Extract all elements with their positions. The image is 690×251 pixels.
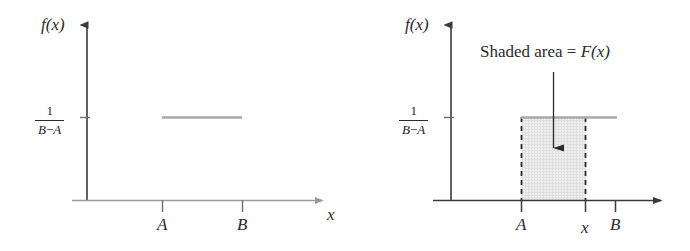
left-fraction-numerator: 1	[35, 103, 64, 120]
right-y-tick-label-fraction: 1 B−A	[399, 103, 428, 138]
left-x-tick-label-a: A	[157, 216, 167, 233]
left-x-axis-label: x	[327, 206, 335, 223]
right-x-tick-label-a: A	[516, 216, 526, 233]
left-x-tick-label-b: B	[237, 216, 247, 233]
right-fraction-denominator: B−A	[399, 120, 428, 138]
left-y-tick-label-fraction: 1 B−A	[35, 103, 64, 138]
panel-uniform-density: f(x) x 1 B−A A B	[0, 0, 345, 251]
left-y-axis-label: f(x)	[41, 16, 65, 33]
panel-uniform-cdf-area: f(x) 1 B−A Shaded area = F(x) A x B	[345, 0, 690, 251]
figure-uniform-distribution: f(x) x 1 B−A A B	[0, 0, 690, 251]
right-fraction-denominator-a: A	[417, 122, 425, 137]
left-fraction-denominator: B−A	[35, 120, 64, 138]
shaded-area-annotation-math: F(x)	[581, 42, 610, 61]
right-y-axis-label: f(x)	[405, 16, 429, 33]
right-fraction-numerator: 1	[399, 103, 428, 120]
shaded-area-annotation: Shaded area = F(x)	[480, 43, 610, 60]
left-fraction-denominator-a: A	[53, 122, 61, 137]
right-x-tick-label-x: x	[581, 219, 589, 236]
right-plot-canvas	[345, 0, 690, 251]
right-x-tick-label-b: B	[610, 216, 620, 233]
shaded-area-annotation-text: Shaded area =	[480, 42, 581, 61]
right-fraction-denominator-b: B	[402, 122, 410, 137]
left-fraction-denominator-b: B	[38, 122, 46, 137]
